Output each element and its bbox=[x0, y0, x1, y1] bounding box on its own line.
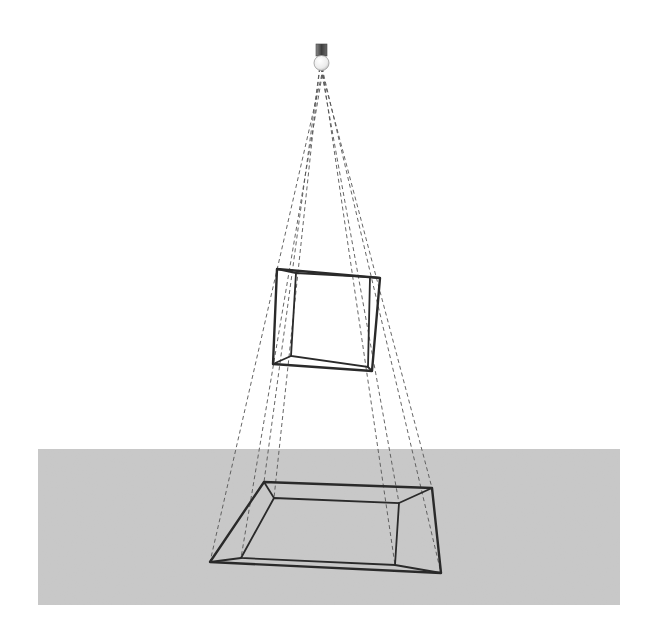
light-ray bbox=[321, 68, 399, 503]
frame-inner-edge bbox=[291, 273, 370, 367]
frame-bevel-tr bbox=[370, 277, 380, 278]
bulb-cap bbox=[316, 44, 327, 56]
ground-plane bbox=[38, 449, 620, 605]
light-ray bbox=[264, 68, 320, 482]
light-bulb-icon bbox=[314, 44, 329, 71]
diagram-canvas bbox=[0, 0, 653, 633]
diagram-svg bbox=[0, 0, 653, 633]
bulb-globe bbox=[314, 56, 329, 71]
